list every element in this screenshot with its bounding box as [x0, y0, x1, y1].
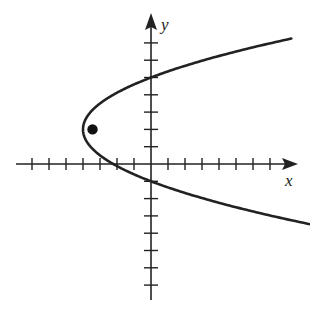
- y-axis-label: y: [159, 15, 169, 34]
- axes: [16, 22, 290, 300]
- parabola-curve: [83, 39, 310, 260]
- focus-point: [87, 124, 97, 134]
- parabola-graph: y x: [0, 0, 310, 319]
- x-axis-label: x: [284, 171, 293, 190]
